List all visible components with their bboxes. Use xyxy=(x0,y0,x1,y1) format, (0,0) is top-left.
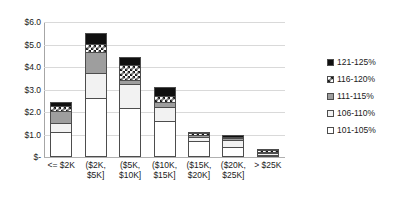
x-tick-line: ($15K, xyxy=(181,160,217,170)
bar-segment[interactable] xyxy=(85,33,107,44)
x-tick-line: ($10K, xyxy=(147,160,183,170)
stacked-column-chart: $-$1.0$2.0$3.0$4.0$5.0$6.0 <= $2K($2K,$5… xyxy=(0,0,397,203)
x-tick-line: $10K] xyxy=(112,170,148,180)
legend-swatch-icon xyxy=(327,93,334,100)
y-tick-label: $1.0 xyxy=(1,131,41,140)
y-tick-label: $6.0 xyxy=(1,18,41,27)
bar-segment[interactable] xyxy=(222,140,244,147)
gridline-4 xyxy=(44,67,285,68)
legend-label: 111-115% xyxy=(337,92,374,101)
bar-segment[interactable] xyxy=(188,137,210,142)
bar-segment[interactable] xyxy=(50,132,72,157)
x-tick-line: $5K] xyxy=(78,170,114,180)
bar-segment[interactable] xyxy=(188,141,210,157)
x-tick-line: ($2K, xyxy=(78,160,114,170)
legend-swatch-icon xyxy=(327,127,334,134)
bar-segment[interactable] xyxy=(222,137,244,139)
bar-segment[interactable] xyxy=(119,65,141,80)
bar-segment[interactable] xyxy=(222,147,244,157)
legend-item[interactable]: 121-125% xyxy=(327,54,397,71)
y-tick-label: $4.0 xyxy=(1,63,41,72)
bar-segment[interactable] xyxy=(188,133,210,135)
x-tick-label: <= $2K xyxy=(43,160,79,170)
bar-segment[interactable] xyxy=(188,135,210,137)
y-tick-label: $- xyxy=(1,153,41,162)
bar-segment[interactable] xyxy=(119,57,141,65)
gridline-5 xyxy=(44,45,285,46)
x-axis-labels: <= $2K($2K,$5K]($5K,$10K]($10K,$15K]($15… xyxy=(44,160,285,202)
bar-segment[interactable] xyxy=(257,149,279,151)
bar-segment[interactable] xyxy=(188,132,210,134)
bar-segment[interactable] xyxy=(222,135,244,137)
bar-segment[interactable] xyxy=(154,107,176,121)
x-tick-line: $25K] xyxy=(215,170,251,180)
x-tick-line: ($20K, xyxy=(215,160,251,170)
x-tick-line: > $25K xyxy=(250,160,286,170)
bar-column[interactable] xyxy=(188,132,210,157)
chart-title xyxy=(0,0,300,1)
bar-segment[interactable] xyxy=(222,138,244,140)
bar-segment[interactable] xyxy=(85,73,107,98)
x-tick-label: > $25K xyxy=(250,160,286,170)
x-tick-line: $15K] xyxy=(147,170,183,180)
legend-item[interactable]: 116-120% xyxy=(327,71,397,88)
bar-segment[interactable] xyxy=(257,155,279,157)
bar-column[interactable] xyxy=(85,33,107,157)
bar-segment[interactable] xyxy=(85,98,107,157)
bar-segment[interactable] xyxy=(50,102,72,106)
chart-legend: 121-125%116-120%111-115%106-110%101-105% xyxy=(327,54,397,139)
bar-segment[interactable] xyxy=(85,44,107,52)
bar-segment[interactable] xyxy=(119,108,141,157)
y-axis-labels: $-$1.0$2.0$3.0$4.0$5.0$6.0 xyxy=(0,0,41,203)
bar-column[interactable] xyxy=(257,149,279,157)
bar-segment[interactable] xyxy=(154,102,176,107)
bar-column[interactable] xyxy=(154,87,176,157)
x-tick-label: ($2K,$5K] xyxy=(78,160,114,180)
legend-item[interactable]: 111-115% xyxy=(327,88,397,105)
gridline-6 xyxy=(44,22,285,23)
bar-segment[interactable] xyxy=(257,150,279,152)
x-tick-label: ($5K,$10K] xyxy=(112,160,148,180)
x-tick-label: ($15K,$20K] xyxy=(181,160,217,180)
y-tick-label: $5.0 xyxy=(1,41,41,50)
bar-segment[interactable] xyxy=(85,52,107,73)
bar-segment[interactable] xyxy=(119,80,141,84)
legend-swatch-icon xyxy=(327,110,334,117)
legend-swatch-icon xyxy=(327,59,334,66)
bar-segment[interactable] xyxy=(154,121,176,157)
bar-segment[interactable] xyxy=(154,87,176,96)
gridline-0 xyxy=(44,157,285,158)
x-tick-line: <= $2K xyxy=(43,160,79,170)
bar-segment[interactable] xyxy=(50,123,72,132)
bar-segment[interactable] xyxy=(50,111,72,123)
plot-area xyxy=(44,22,285,157)
y-tick-label: $3.0 xyxy=(1,86,41,95)
x-tick-label: ($20K,$25K] xyxy=(215,160,251,180)
legend-label: 106-110% xyxy=(337,109,375,118)
x-tick-line: ($5K, xyxy=(112,160,148,170)
legend-label: 116-120% xyxy=(337,75,375,84)
bar-segment[interactable] xyxy=(257,152,279,154)
y-tick-label: $2.0 xyxy=(1,108,41,117)
bar-column[interactable] xyxy=(119,57,141,157)
bar-segment[interactable] xyxy=(119,84,141,108)
bar-column[interactable] xyxy=(222,135,244,157)
bar-segment[interactable] xyxy=(154,96,176,101)
legend-label: 121-125% xyxy=(337,58,376,67)
bar-segment[interactable] xyxy=(257,153,279,155)
legend-label: 101-105% xyxy=(337,126,376,135)
legend-swatch-icon xyxy=(327,76,334,83)
x-tick-label: ($10K,$15K] xyxy=(147,160,183,180)
x-tick-line: $20K] xyxy=(181,170,217,180)
bar-column[interactable] xyxy=(50,102,72,157)
legend-item[interactable]: 106-110% xyxy=(327,105,397,122)
legend-item[interactable]: 101-105% xyxy=(327,122,397,139)
bar-segment[interactable] xyxy=(50,106,72,111)
